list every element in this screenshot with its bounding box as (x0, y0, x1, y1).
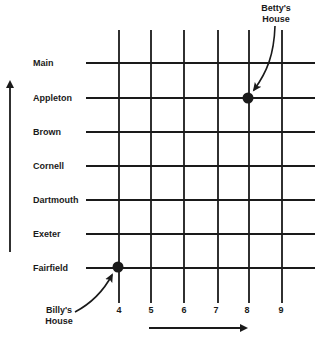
street-labels: Main Appleton Brown Cornell Dartmouth Ex… (33, 58, 79, 273)
street-label-main: Main (33, 58, 54, 68)
street-label-brown: Brown (33, 127, 61, 137)
street-label-cornell: Cornell (33, 161, 64, 171)
billy-house-label-line2: House (45, 316, 73, 326)
billy-house-label-line1: Billy's (46, 305, 72, 315)
avenue-label-4: 4 (116, 305, 121, 315)
street-lines (86, 63, 315, 268)
street-label-dartmouth: Dartmouth (33, 195, 79, 205)
avenue-label-8: 8 (244, 305, 249, 315)
billy-house-pointer-arrow-icon (75, 275, 112, 312)
street-grid-diagram: Main Appleton Brown Cornell Dartmouth Ex… (0, 0, 323, 341)
betty-house-label-line1: Betty's (261, 3, 291, 13)
betty-house-label-line2: House (262, 14, 290, 24)
street-label-appleton: Appleton (33, 93, 72, 103)
street-label-fairfield: Fairfield (33, 263, 68, 273)
betty-house-dot-icon (243, 93, 254, 104)
betty-house-pointer-arrow-icon (254, 26, 275, 90)
billy-house-dot-icon (113, 262, 124, 273)
avenue-label-6: 6 (181, 305, 186, 315)
avenue-label-9: 9 (278, 305, 283, 315)
avenue-labels: 4 5 6 7 8 9 (116, 305, 283, 315)
street-label-exeter: Exeter (33, 229, 61, 239)
avenue-label-7: 7 (213, 305, 218, 315)
avenue-label-5: 5 (148, 305, 153, 315)
